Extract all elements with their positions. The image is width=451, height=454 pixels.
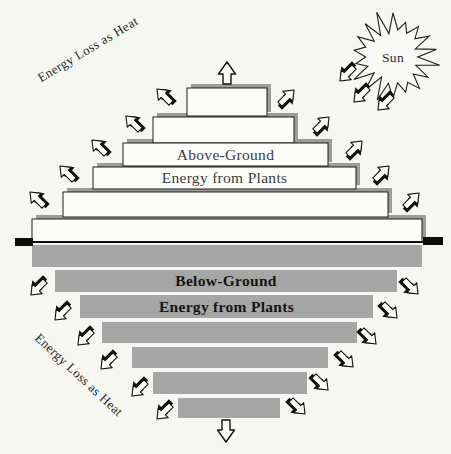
above-ground-level-5 (63, 192, 388, 217)
below-energy-from-plants-label: Energy from Plants (159, 298, 294, 315)
sun-label: Sun (382, 50, 404, 65)
above-ground-level-2 (153, 117, 294, 143)
below-ground-level-5 (132, 347, 328, 368)
ground-left-cap (15, 238, 33, 246)
ground-right-cap (423, 237, 443, 245)
above-energy-from-plants-label: Energy from Plants (162, 169, 288, 186)
energy-pyramid-diagram: Sun Above-Ground Energy from Plants Belo… (0, 0, 451, 454)
above-ground-label: Above-Ground (177, 146, 274, 163)
below-ground-level-7 (178, 398, 280, 418)
below-ground-level-4 (102, 322, 357, 343)
below-ground-level-6 (153, 372, 307, 394)
above-ground-level-6 (32, 219, 422, 242)
diagram-canvas: Sun Above-Ground Energy from Plants Belo… (0, 0, 451, 454)
below-ground-level-1 (32, 245, 422, 267)
above-ground-level-1 (187, 88, 267, 116)
below-ground-label: Below-Ground (175, 272, 277, 289)
